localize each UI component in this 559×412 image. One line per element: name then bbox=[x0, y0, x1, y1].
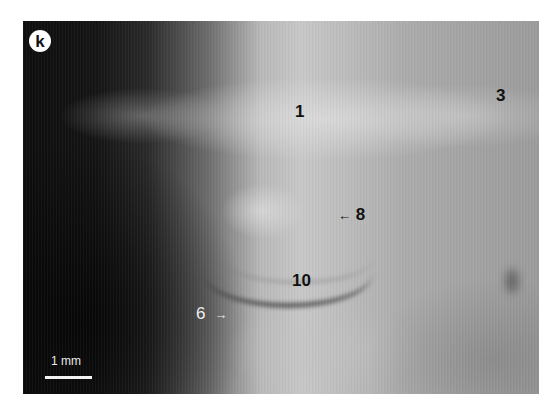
label-10: 10 bbox=[292, 272, 311, 289]
image-grain bbox=[23, 21, 539, 394]
scale-bar-label: 1 mm bbox=[51, 355, 81, 367]
panel-letter-badge: k bbox=[29, 30, 51, 52]
label-10-text: 10 bbox=[292, 271, 311, 290]
left-arrow-icon: ← bbox=[338, 208, 351, 223]
label-8-text: 8 bbox=[356, 205, 365, 224]
scale-bar bbox=[45, 376, 92, 379]
label-6: 6 → bbox=[196, 305, 227, 322]
right-arrow-icon: → bbox=[214, 307, 227, 322]
label-6-text: 6 bbox=[196, 304, 205, 323]
label-8: ← 8 bbox=[338, 206, 365, 223]
label-3-text: 3 bbox=[496, 86, 505, 105]
micrograph-panel bbox=[23, 21, 539, 394]
label-3: 3 bbox=[496, 87, 505, 104]
label-1-text: 1 bbox=[295, 102, 304, 121]
label-1: 1 bbox=[295, 103, 304, 120]
